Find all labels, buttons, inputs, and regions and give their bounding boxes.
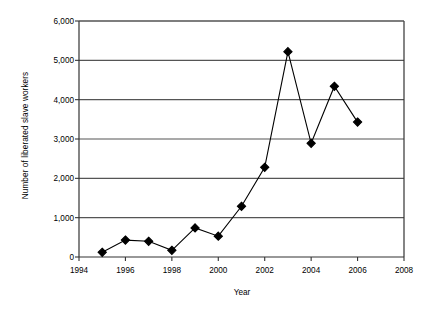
plot-area xyxy=(0,0,436,315)
line-chart: Number of liberated slave workers 0 1,00… xyxy=(0,0,436,315)
data-markers xyxy=(98,48,362,257)
data-line xyxy=(102,52,357,253)
